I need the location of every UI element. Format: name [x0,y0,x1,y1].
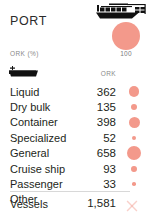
totals-row: Vessels 1,581 [0,196,152,214]
list-item[interactable]: Dry bulk 135 [0,99,152,114]
row-bubble [120,115,148,130]
unit-label: ORK (%) [10,50,39,57]
list-item[interactable]: Cruise ship 93 [0,161,152,176]
total-value: 1,581 [87,197,116,209]
row-label: Cruise ship [10,163,65,175]
row-value: 398 [97,116,116,128]
row-value: 52 [103,132,116,144]
value-column-header: ORK [101,70,116,77]
row-bubble [120,146,148,161]
list-item[interactable]: General 658 [0,146,152,161]
cargo-ship-icon [96,3,146,22]
tanker-ship-icon [8,66,42,79]
row-bubble [120,100,148,115]
row-label: Dry bulk [10,101,50,113]
table-header-row: ORK [0,64,152,84]
row-bubble [120,130,148,145]
row-value: 658 [97,147,116,159]
cross-mark-icon [124,199,140,213]
row-value: 362 [97,86,116,98]
row-bubble [120,161,148,176]
list-item[interactable]: Specialized 52 [0,130,152,145]
row-label: Liquid [10,86,39,98]
total-label: Vessels [10,198,48,210]
row-bubble [120,84,148,99]
page-title: PORT [10,14,47,28]
row-value: 93 [103,163,116,175]
port-summary-card: PORT [0,0,152,216]
list-item[interactable]: Passenger 33 [0,176,152,191]
footer-divider [10,191,130,192]
row-label: Specialized [10,132,66,144]
card-header: PORT [0,0,152,62]
row-value: 135 [97,101,116,113]
row-label: Container [10,116,58,128]
row-bubble [120,177,148,192]
list-item[interactable]: Container 398 [0,115,152,130]
list-item[interactable]: Liquid 362 [0,84,152,99]
scale-reference-label: 100 [112,50,140,57]
row-label: General [10,147,49,159]
row-label: Passenger [10,178,63,190]
scale-reference-bubble [112,22,140,50]
row-value: 33 [103,178,116,190]
vessel-type-list: Liquid 362 Dry bulk 135 Container 398 Sp… [0,84,152,207]
